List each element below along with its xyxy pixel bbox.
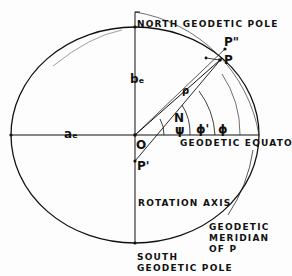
semi-minor-label: bₑ <box>130 73 144 85</box>
p-double-prime-label: P" <box>224 36 239 48</box>
geodetic-diagram: NORTH GEODETIC POLE P" P bₑ ρ N ψ ϕ' ϕ a… <box>0 0 292 276</box>
meridian-label: GEODETIC MERIDIAN OF P <box>209 222 270 255</box>
south-pole-label: SOUTH GEODETIC POLE <box>137 252 233 274</box>
rho-label: ρ <box>182 86 189 96</box>
north-pole-label: NORTH GEODETIC POLE <box>137 20 278 29</box>
phi-prime-label: ϕ' <box>196 123 209 135</box>
rotation-axis-label: ROTATION AXIS <box>138 199 231 208</box>
semi-major-label: aₑ <box>64 128 78 140</box>
phi-label: ϕ <box>218 123 228 135</box>
equator-label: GEODETIC EQUATOR <box>180 139 292 148</box>
p-label: P <box>224 54 233 66</box>
p-prime-label: P' <box>137 160 149 172</box>
origin-label: O <box>136 139 146 151</box>
psi-label: ψ <box>175 124 185 136</box>
